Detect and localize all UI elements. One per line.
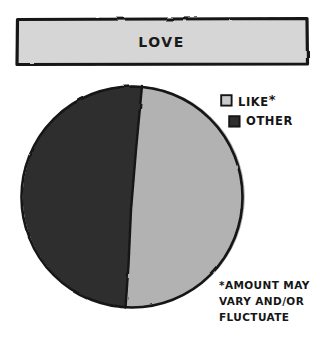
chart-canvas: LOVE LIKE* OTHER bbox=[0, 0, 326, 340]
legend-like-footnote-marker: * bbox=[269, 92, 276, 107]
legend-item-other-label: OTHER bbox=[246, 116, 293, 128]
footnote-line-1: *AMOUNT MAY bbox=[219, 277, 326, 293]
legend: LIKE* OTHER bbox=[221, 92, 321, 134]
pie-divider bbox=[126, 86, 143, 308]
light-square-icon bbox=[221, 95, 232, 106]
dark-square-icon bbox=[229, 116, 240, 127]
footnote-line-2: VARY AND/OR bbox=[219, 293, 326, 309]
chart-title-box: LOVE bbox=[16, 18, 308, 65]
legend-like-text: LIKE bbox=[238, 95, 269, 109]
footnote-disclaimer: *AMOUNT MAY VARY AND/OR FLUCTUATE bbox=[219, 277, 326, 325]
pie-slice-other bbox=[23, 86, 142, 308]
legend-item-like[interactable]: LIKE* bbox=[221, 92, 321, 109]
pie-outline bbox=[22, 87, 243, 308]
footnote-line-3: FLUCTUATE bbox=[219, 309, 326, 325]
page-title: LOVE bbox=[16, 18, 308, 65]
legend-item-like-label: LIKE* bbox=[238, 93, 276, 109]
legend-item-other[interactable]: OTHER bbox=[229, 113, 321, 130]
